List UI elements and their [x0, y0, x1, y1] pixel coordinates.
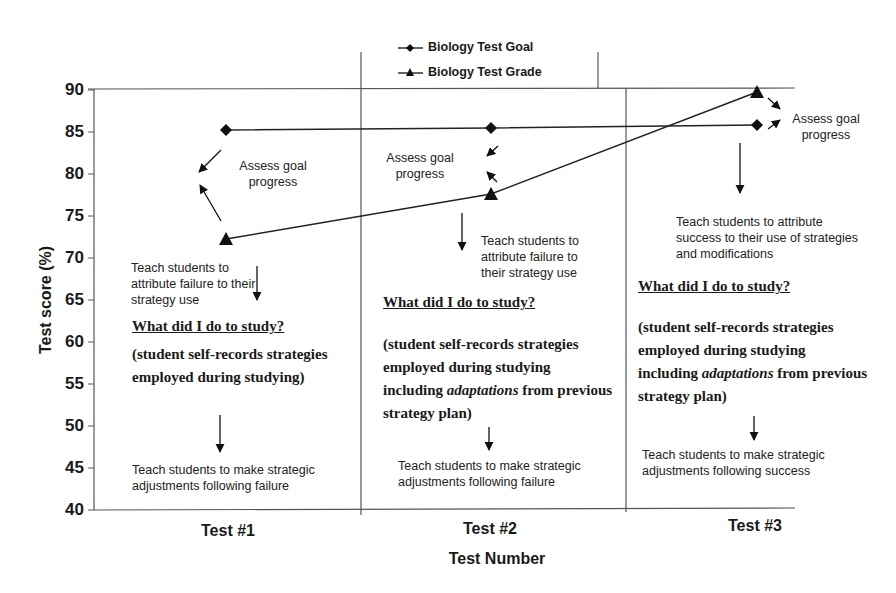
y-axis-label: Test score (%) — [37, 246, 55, 354]
panel3-heading: What did I do to study? — [638, 278, 790, 295]
legend-symbols — [398, 44, 423, 76]
legend-goal-label: Biology Test Goal — [428, 40, 533, 54]
y-tick-50: 50 — [40, 417, 84, 435]
panel2-adjust-note: Teach students to make strategic adjustm… — [398, 458, 618, 490]
panel1-record-note: (student self-records strategies employe… — [132, 343, 347, 389]
panel1-heading: What did I do to study? — [132, 318, 284, 335]
y-tick-75: 75 — [40, 207, 84, 225]
panel2-record-note: (student self-records strategies employe… — [383, 333, 613, 425]
x-tick-test3: Test #3 — [728, 517, 782, 535]
y-tick-80: 80 — [40, 165, 84, 183]
panel1-adjust-note: Teach students to make strategic adjustm… — [132, 462, 352, 494]
panel3-adjust-note: Teach students to make strategic adjustm… — [642, 447, 862, 479]
panel1-assess-note: Assess goal progress — [233, 158, 313, 190]
panel2-assess-note: Assess goal progress — [380, 150, 460, 182]
panel1-attribute-note: Teach students to attribute failure to t… — [131, 260, 256, 308]
panel2-attribute-note: Teach students to attribute failure to t… — [481, 233, 601, 281]
y-tick-40: 40 — [40, 501, 84, 519]
panel3-attribute-note: Teach students to attribute success to t… — [676, 214, 866, 262]
x-tick-test1: Test #1 — [201, 522, 255, 540]
y-tick-85: 85 — [40, 123, 84, 141]
y-tick-45: 45 — [40, 459, 84, 477]
x-tick-test2: Test #2 — [463, 520, 517, 538]
x-axis-label: Test Number — [449, 550, 546, 568]
y-tick-55: 55 — [40, 375, 84, 393]
panel3-assess-note: Assess goal progress — [786, 111, 866, 143]
panel2-heading: What did I do to study? — [383, 294, 535, 311]
y-tick-90: 90 — [40, 81, 84, 99]
y-axis-ticks — [88, 90, 94, 468]
legend-grade-label: Biology Test Grade — [428, 65, 542, 79]
panel3-record-note: (student self-records strategies employe… — [638, 316, 868, 408]
